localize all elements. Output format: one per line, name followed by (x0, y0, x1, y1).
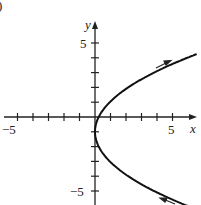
parametric-plot: ) y x −5 5 5 −5 (0, 0, 201, 205)
y-axis-arrow-icon (92, 21, 98, 29)
y-max-label: 5 (80, 36, 87, 51)
y-min-label: −5 (70, 184, 84, 199)
y-axis-label: y (83, 17, 91, 32)
curve (95, 54, 197, 205)
x-min-label: −5 (2, 122, 16, 137)
x-axis-label: x (189, 121, 196, 136)
x-axis-arrow-icon (189, 114, 197, 120)
x-max-label: 5 (168, 122, 175, 137)
corner-label: ) (0, 0, 2, 13)
